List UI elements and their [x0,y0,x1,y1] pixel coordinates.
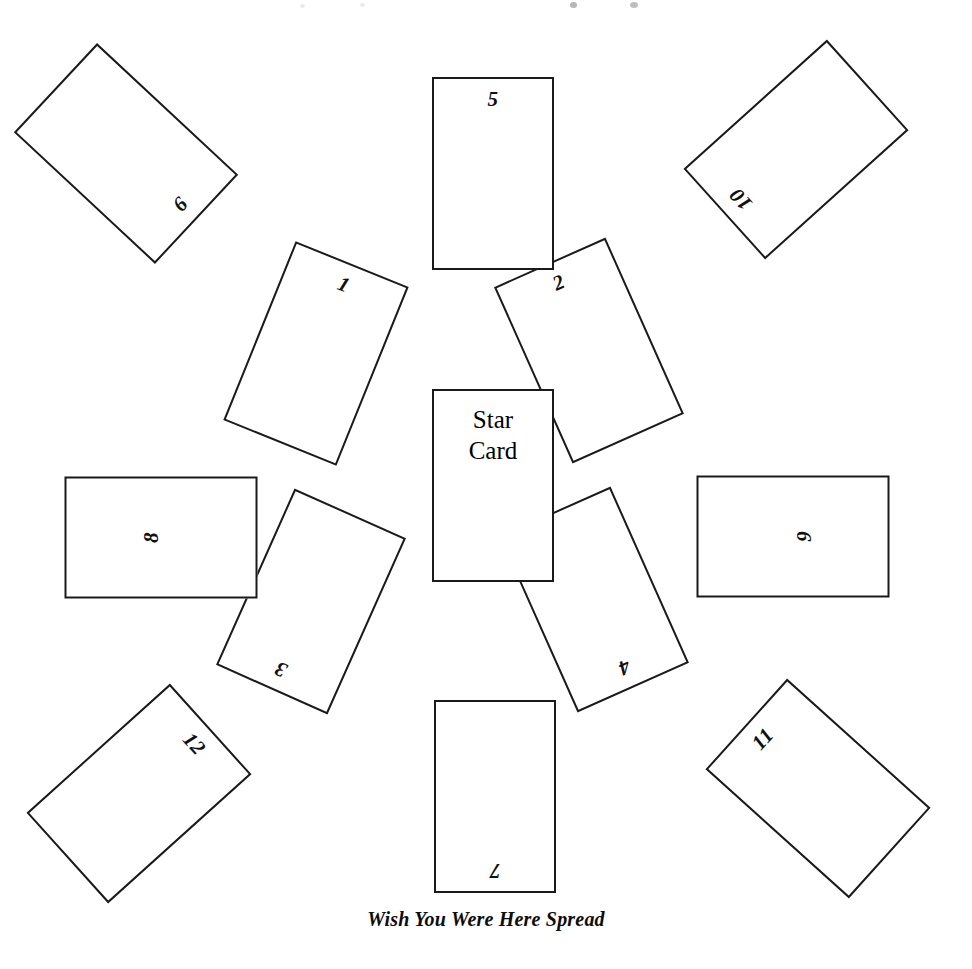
spread-diagram: 123456789101112 Star Card Wish You Were … [0,0,972,969]
center-star-card[interactable]: Star Card [432,389,554,582]
card-number-label: 4 [566,634,682,701]
scan-artifact [300,4,305,8]
tarot-card-8[interactable]: 8 [65,477,258,599]
center-card-line-1: Star [434,405,552,436]
tarot-card-1[interactable]: 1 [223,241,408,466]
spread-caption: Wish You Were Here Spread [0,908,972,931]
tarot-card-10[interactable]: 10 [683,40,908,260]
card-number-label: 8 [140,479,161,597]
card-number-label: 9 [132,154,228,255]
card-number-label: 3 [223,636,339,703]
tarot-card-11[interactable]: 11 [705,679,930,899]
card-number-label: 6 [793,478,814,596]
tarot-card-9[interactable]: 9 [14,43,238,264]
card-number-label: 1 [285,253,402,317]
card-number-label: 11 [716,688,811,790]
scan-artifact [570,2,577,8]
scan-artifact [630,2,638,8]
card-number-label: 10 [694,148,789,250]
tarot-card-12[interactable]: 12 [26,684,251,904]
tarot-card-5[interactable]: 5 [432,77,554,270]
scan-artifact [360,3,365,7]
center-card-label: Star Card [434,405,552,466]
card-number-label: 5 [434,89,552,110]
tarot-card-7[interactable]: 7 [434,700,556,893]
card-number-label: 7 [436,860,554,881]
card-number-label: 12 [147,693,242,795]
center-card-line-2: Card [434,436,552,467]
tarot-card-6[interactable]: 6 [697,476,890,598]
